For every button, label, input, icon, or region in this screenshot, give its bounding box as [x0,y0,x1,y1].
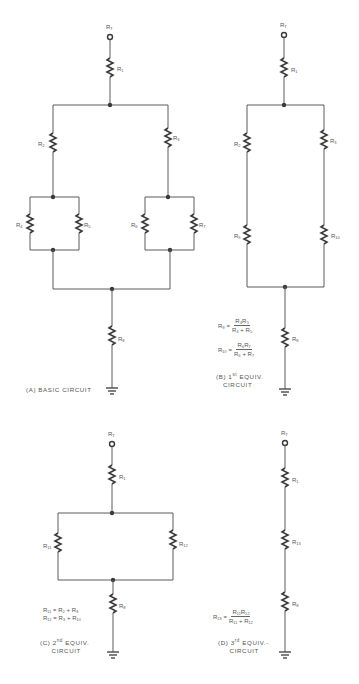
caption-d: (D) 3rd EQUIV.- CIRCUIT [218,638,269,656]
label-r8: R8 [292,336,299,343]
caption-a: (A) BASIC CIRCUIT [26,386,92,394]
resistor-r1 [109,465,115,484]
resistor-r12 [170,530,176,549]
panel-c-second-equivalent [55,442,176,659]
resistor-r2 [50,133,56,152]
label-r8: R8 [118,336,125,343]
resistor-r10 [321,225,327,244]
ground-icon [279,652,291,658]
label-r8: R8 [292,601,299,608]
label-r9: R9 [234,233,241,240]
label-r1: R1 [117,66,124,73]
resistor-r1 [282,468,288,487]
label-r1: R1 [292,477,299,484]
resistor-r9 [244,225,250,244]
resistor-r7 [191,214,197,233]
label-r12: R12 [179,541,188,548]
resistor-r8 [109,326,115,345]
resistor-r8 [282,592,288,611]
resistor-r2 [244,133,250,152]
resistor-r1 [281,58,287,77]
formula-r12: R₁₂ = R₃ + R₁₀ [43,615,81,621]
resistor-r3 [165,128,171,147]
panel-b-first-equivalent [244,33,327,396]
formula-r9: R₉ = R₄R₅R₄ + R₅ [218,318,252,333]
terminal-rt [108,35,113,40]
label-r2: R2 [234,141,241,148]
ground-icon [107,652,119,658]
caption-b: (B) 1st EQUIV. CIRCUIT [216,372,263,390]
label-rt: RT [281,430,288,437]
circuit-diagram [0,0,359,684]
label-r7: R7 [199,222,206,229]
label-r5: R5 [84,222,91,229]
label-r10: R10 [331,233,340,240]
label-r4: R4 [16,222,23,229]
resistor-r3 [321,130,327,149]
label-r3: R3 [330,138,337,145]
ground-icon [279,389,291,395]
label-r8: R8 [119,603,126,610]
label-r13: R13 [292,539,301,546]
resistor-r11 [55,533,61,552]
label-rt: RT [108,431,115,438]
label-r1: R1 [291,67,298,74]
formula-r11: R₁₁ = R₂ + R₉ [43,607,78,613]
panel-a-basic-circuit [27,35,197,395]
panel-d-third-equivalent [279,441,291,659]
label-r6: R6 [131,222,138,229]
label-r11: R11 [43,543,52,550]
resistor-r6 [142,214,148,233]
label-r3: R3 [173,135,180,142]
junction [108,103,112,107]
caption-c: (C) 2nd EQUIV. CIRCUIT [40,638,89,656]
resistor-r8 [282,328,288,347]
resistor-r1 [107,58,113,77]
label-r2: R2 [38,141,45,148]
label-r1: R1 [119,474,126,481]
ground-icon [106,388,118,394]
resistor-r5 [76,214,82,233]
formula-r13: R₁₃ = R₁₁R₁₂R₁₁ + R₁₂ [213,609,253,624]
resistor-r4 [27,214,33,233]
formula-r10: R₁₀ = R₆R₇R₆ + R₇ [218,342,254,357]
resistor-r8 [110,594,116,613]
label-rt: RT [280,22,287,29]
label-rt: RT [106,24,113,31]
resistor-r13 [282,530,288,549]
